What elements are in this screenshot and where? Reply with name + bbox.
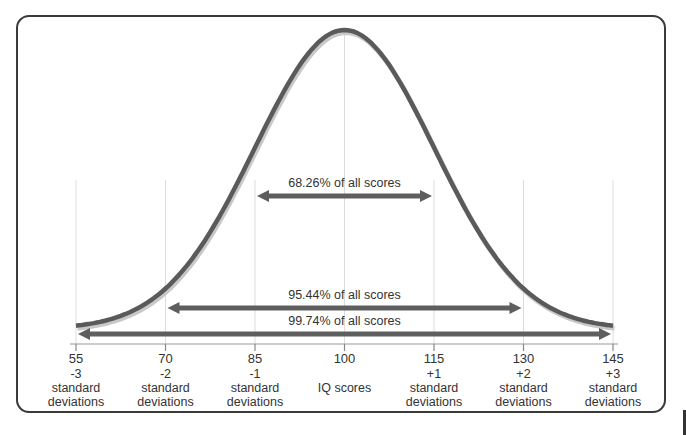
sd-description: standard deviations: [489, 381, 559, 409]
arrowhead-left-icon: [168, 302, 180, 314]
axis-label-145: 145+3standard deviations: [568, 352, 658, 409]
sd-value: +2: [479, 367, 569, 381]
tick-value: 70: [121, 352, 211, 366]
axis-label-70: 70-2standard deviations: [121, 352, 211, 409]
arrowhead-right-icon: [510, 302, 522, 314]
axis-label-115: 115+1standard deviations: [389, 352, 479, 409]
axis-label-130: 130+2standard deviations: [479, 352, 569, 409]
x-axis-title: IQ scores: [300, 381, 390, 395]
arrowhead-right-icon: [420, 190, 432, 202]
sd-description: standard deviations: [41, 381, 111, 409]
sd-description: standard deviations: [220, 381, 290, 409]
sd-description: standard deviations: [399, 381, 469, 409]
sd-value: +1: [389, 367, 479, 381]
tick-value: 130: [479, 352, 569, 366]
axis-label-85: 85-1standard deviations: [210, 352, 300, 409]
tick-value: 145: [568, 352, 658, 366]
sd-value: -2: [121, 367, 211, 381]
range-label: 95.44% of all scores: [245, 288, 445, 302]
sd-value: +3: [568, 367, 658, 381]
tick-value: 115: [389, 352, 479, 366]
range-label: 68.26% of all scores: [245, 176, 445, 190]
tick-value: 55: [31, 352, 121, 366]
arrowhead-left-icon: [257, 190, 269, 202]
tick-value: 85: [210, 352, 300, 366]
tick-value: 100: [300, 352, 390, 366]
sd-description: standard deviations: [578, 381, 648, 409]
sd-description: standard deviations: [131, 381, 201, 409]
sd-value: -1: [210, 367, 300, 381]
sd-value: -3: [31, 367, 121, 381]
x-axis-ticks: [76, 344, 613, 351]
axis-label-100: 100IQ scores: [300, 352, 390, 395]
axis-label-55: 55-3standard deviations: [31, 352, 121, 409]
range-label: 99.74% of all scores: [245, 314, 445, 328]
